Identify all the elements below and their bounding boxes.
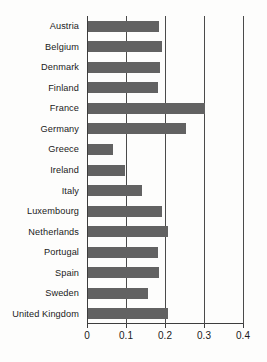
bar <box>88 185 142 196</box>
bar <box>88 206 162 217</box>
x-tick-label: 0.4 <box>236 330 250 342</box>
bar <box>88 165 125 176</box>
gridline-0-4 <box>243 16 244 324</box>
x-tick-mark <box>165 324 166 328</box>
bar <box>88 247 158 258</box>
category-label: France <box>0 103 79 113</box>
bar <box>88 123 186 134</box>
bar <box>88 21 159 32</box>
category-label: Greece <box>0 144 79 154</box>
x-tick-label: 0 <box>84 330 90 342</box>
bar-chart: AustriaBelgiumDenmarkFinlandFranceGerman… <box>0 0 267 362</box>
bar <box>88 288 148 299</box>
x-tick-label: 0.3 <box>197 330 211 342</box>
x-tick-mark <box>204 324 205 328</box>
bar <box>88 103 205 114</box>
category-label: United Kingdom <box>0 309 79 319</box>
bar <box>88 62 160 73</box>
gridline-0-2 <box>165 16 166 324</box>
category-label: Sweden <box>0 288 79 298</box>
gridline-0-3 <box>204 16 205 324</box>
category-label: Netherlands <box>0 227 79 237</box>
category-label: Portugal <box>0 247 79 257</box>
bar <box>88 41 162 52</box>
category-label: Belgium <box>0 42 79 52</box>
category-label: Denmark <box>0 62 79 72</box>
x-axis-ticks: 00.10.20.30.4 <box>87 324 247 348</box>
bar <box>88 267 159 278</box>
bar <box>88 226 168 237</box>
x-tick-mark <box>126 324 127 328</box>
category-label: Ireland <box>0 165 79 175</box>
x-tick-mark <box>87 324 88 328</box>
x-tick-label: 0.2 <box>158 330 172 342</box>
category-axis-labels: AustriaBelgiumDenmarkFinlandFranceGerman… <box>0 16 83 324</box>
category-label: Austria <box>0 21 79 31</box>
x-tick-mark <box>243 324 244 328</box>
bar <box>88 308 168 319</box>
plot-area <box>87 16 243 324</box>
category-label: Finland <box>0 83 79 93</box>
category-label: Luxembourg <box>0 206 79 216</box>
x-tick-label: 0.1 <box>119 330 133 342</box>
bar <box>88 144 113 155</box>
category-label: Spain <box>0 268 79 278</box>
bar <box>88 82 158 93</box>
category-label: Germany <box>0 124 79 134</box>
category-label: Italy <box>0 186 79 196</box>
